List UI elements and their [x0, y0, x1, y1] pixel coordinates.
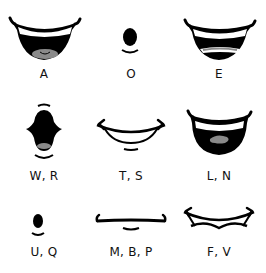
mouth-u-q-icon	[0, 190, 88, 250]
mouth-f-v-icon	[175, 190, 263, 250]
mouth-a-icon	[0, 0, 88, 65]
mouth-label: O	[87, 67, 175, 81]
mouth-label: W, R	[0, 169, 88, 183]
mouth-t-s-icon	[87, 95, 175, 165]
mouth-w-r-icon	[0, 95, 88, 165]
mouth-l-n-icon	[175, 95, 263, 165]
mouth-t-s: T, S	[87, 95, 175, 185]
mouth-u-q: U, Q	[0, 190, 88, 273]
mouth-label: A	[0, 67, 88, 81]
mouth-w-r: W, R	[0, 95, 88, 185]
mouth-l-n: L, N	[175, 95, 263, 185]
mouth-e-icon	[175, 0, 263, 65]
mouth-o: O	[87, 0, 175, 90]
mouth-label: L, N	[175, 169, 263, 183]
mouth-label: E	[175, 67, 263, 81]
mouth-label: F, V	[175, 245, 263, 259]
mouth-m-b-p-icon	[87, 190, 175, 250]
mouth-label: T, S	[87, 169, 175, 183]
mouth-label: U, Q	[0, 245, 88, 259]
mouth-f-v: F, V	[175, 190, 263, 273]
mouth-label: M, B, P	[87, 245, 175, 259]
mouth-e: E	[175, 0, 263, 90]
mouth-a: A	[0, 0, 88, 90]
mouth-m-b-p: M, B, P	[87, 190, 175, 273]
mouth-o-icon	[87, 0, 175, 65]
